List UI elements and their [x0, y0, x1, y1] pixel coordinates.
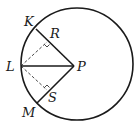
right-angle-mark-S: [45, 85, 50, 88]
label-M: M: [21, 105, 36, 120]
label-P: P: [76, 59, 86, 74]
label-L: L: [5, 59, 15, 74]
right-angle-mark-R: [45, 45, 50, 48]
label-K: K: [23, 14, 35, 29]
label-S: S: [48, 90, 57, 105]
geometry-diagram: K R L P S M: [0, 0, 134, 127]
label-R: R: [49, 26, 60, 41]
